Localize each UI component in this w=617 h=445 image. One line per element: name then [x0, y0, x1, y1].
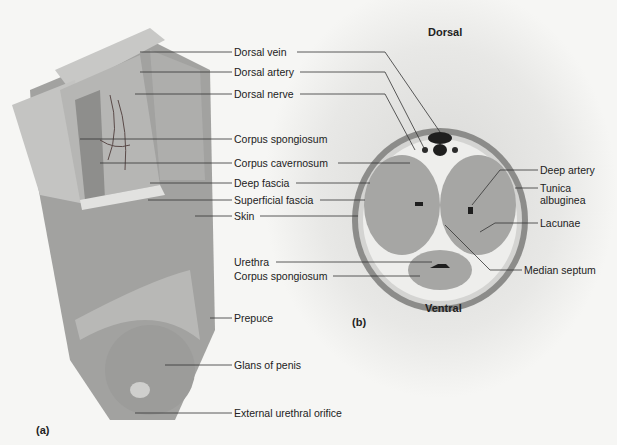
label-corpus-spongiosum: Corpus spongiosum: [234, 133, 327, 145]
orientation-ventral: Ventral: [425, 302, 462, 314]
label-corpus-spongiosum-b: Corpus spongiosum: [234, 270, 327, 282]
label-deep-fascia: Deep fascia: [234, 177, 289, 189]
label-skin: Skin: [234, 210, 254, 222]
label-lacunae: Lacunae: [540, 217, 580, 229]
label-dorsal-vein: Dorsal vein: [234, 46, 287, 58]
label-external-urethral-orifice: External urethral orifice: [234, 407, 342, 419]
label-corpus-cavernosum: Corpus cavernosum: [234, 157, 328, 169]
label-median-septum: Median septum: [524, 264, 596, 276]
label-albuginea: albuginea: [540, 194, 586, 206]
label-tunica: Tunica: [540, 182, 571, 194]
label-deep-artery: Deep artery: [540, 164, 595, 176]
orientation-dorsal: Dorsal: [428, 26, 462, 38]
label-glans-of-penis: Glans of penis: [234, 359, 301, 371]
panel-label-a: (a): [36, 424, 49, 436]
cross-section: [352, 128, 528, 312]
label-superficial-fascia: Superficial fascia: [234, 194, 313, 206]
label-urethra: Urethra: [234, 256, 269, 268]
label-dorsal-artery: Dorsal artery: [234, 66, 294, 78]
panel-label-b: (b): [352, 316, 366, 328]
illustration: [0, 0, 617, 445]
label-dorsal-nerve: Dorsal nerve: [234, 88, 294, 100]
label-prepuce: Prepuce: [234, 312, 273, 324]
longitudinal-view: [12, 28, 215, 420]
